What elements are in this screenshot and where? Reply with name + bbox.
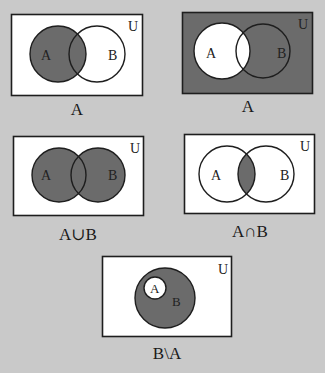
caption-a: A xyxy=(37,101,117,118)
venn-diagram-difference: A B U xyxy=(103,257,232,337)
venn-diagram-a: A B U xyxy=(12,15,143,96)
set-b-label: B xyxy=(172,294,181,309)
set-b-label: B xyxy=(277,46,286,61)
caption-complement-a: A xyxy=(208,98,288,115)
set-b-label: B xyxy=(108,168,117,183)
venn-diagram-union: A B U xyxy=(14,137,144,216)
universe-label: U xyxy=(298,17,308,32)
set-a-label: A xyxy=(150,281,160,296)
set-a-label: A xyxy=(206,46,217,61)
universe-label: U xyxy=(300,139,310,154)
universe-label: U xyxy=(128,19,138,34)
caption-union: A∪B xyxy=(38,226,118,243)
universe-label: U xyxy=(218,262,228,277)
set-a-label: A xyxy=(41,48,52,63)
universe-label: U xyxy=(130,141,140,156)
set-a-label: A xyxy=(211,168,222,183)
set-a-label: A xyxy=(41,168,52,183)
caption-intersection: A∩B xyxy=(210,223,290,240)
set-b-circle xyxy=(135,268,195,328)
set-b-label: B xyxy=(280,168,289,183)
set-b-label: B xyxy=(108,48,117,63)
venn-diagram-panel: A B U A B U A B U A B U A B xyxy=(0,0,325,373)
caption-difference: B\A xyxy=(127,345,207,362)
venn-diagram-complement-a: A B U xyxy=(183,13,313,94)
venn-diagram-intersection: A B U xyxy=(185,135,315,214)
